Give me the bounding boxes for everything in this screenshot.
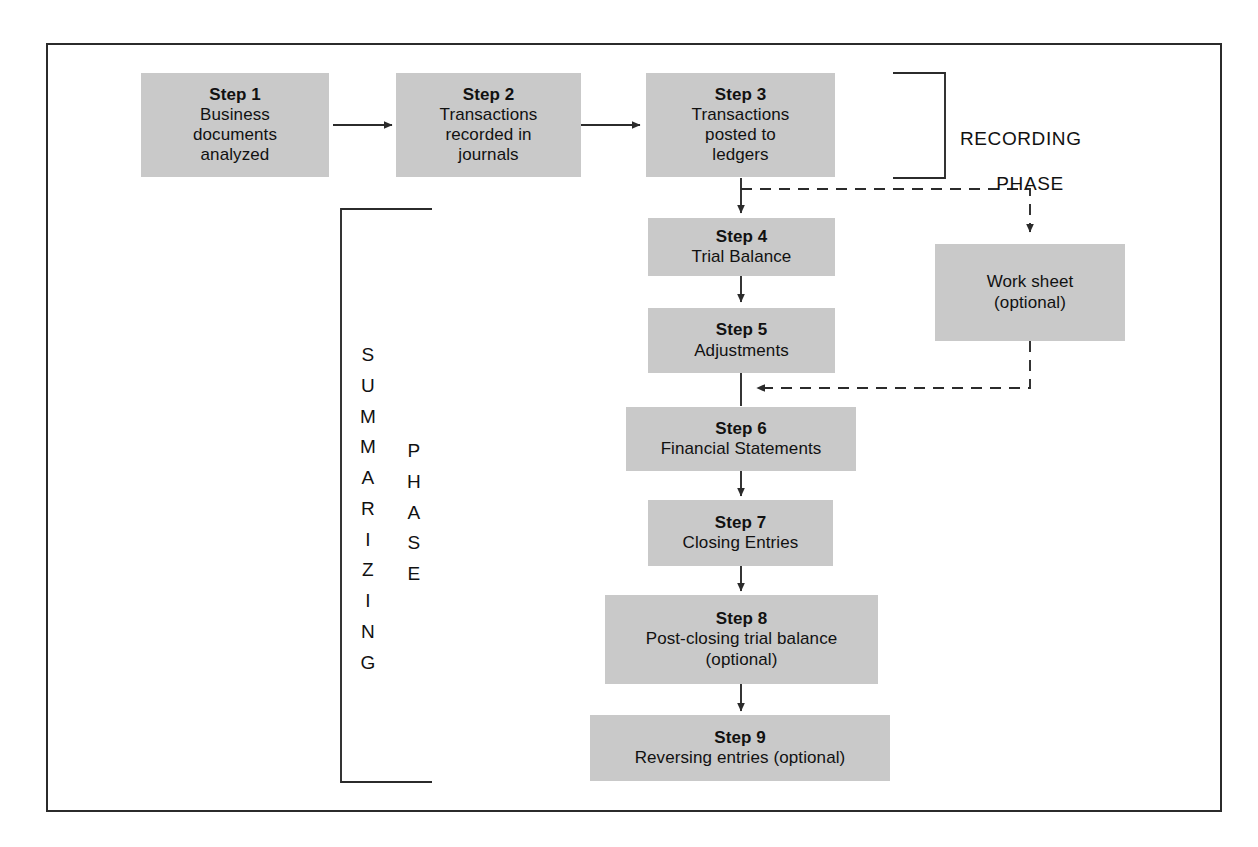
- box-step5-title: Step 5: [716, 320, 768, 340]
- summarizing-letter-3: M: [358, 432, 378, 463]
- box-step9-title: Step 9: [714, 728, 766, 748]
- phase-letter-3: S: [404, 528, 424, 559]
- box-worksheet-line2: (optional): [994, 293, 1066, 313]
- box-step3-line3: ledgers: [712, 145, 768, 165]
- box-step3-line1: Transactions: [692, 105, 790, 125]
- box-step8-title: Step 8: [716, 609, 768, 629]
- box-step2-line3: journals: [458, 145, 518, 165]
- box-worksheet-line1: Work sheet: [987, 272, 1074, 292]
- recording-phase-bracket: [893, 73, 945, 178]
- box-step3-line2: posted to: [705, 125, 776, 145]
- box-step4-title: Step 4: [716, 227, 768, 247]
- summarizing-letter-10: G: [358, 648, 378, 679]
- box-step4-line1: Trial Balance: [692, 247, 792, 267]
- box-step8-line2: (optional): [706, 650, 778, 670]
- phase-letter-0: P: [404, 436, 424, 467]
- box-step7-title: Step 7: [715, 513, 767, 533]
- diagram-canvas: Step 1 Business documents analyzed Step …: [0, 0, 1258, 847]
- phase-letter-2: A: [404, 498, 424, 529]
- box-step2-line2: recorded in: [445, 125, 531, 145]
- phase-letter-1: H: [404, 467, 424, 498]
- box-step5[interactable]: Step 5 Adjustments: [648, 308, 835, 373]
- box-step1-line2: documents: [193, 125, 277, 145]
- summarizing-letter-7: Z: [358, 555, 378, 586]
- box-step3[interactable]: Step 3 Transactions posted to ledgers: [646, 73, 835, 177]
- box-step6-line1: Financial Statements: [661, 439, 822, 459]
- summarizing-letter-9: N: [358, 617, 378, 648]
- summarizing-letter-5: R: [358, 494, 378, 525]
- recording-phase-line1: RECORDING: [960, 128, 1120, 150]
- box-step1-line1: Business: [200, 105, 270, 125]
- box-step9-line1: Reversing entries (optional): [635, 748, 846, 768]
- box-step1-line3: analyzed: [201, 145, 270, 165]
- box-step5-line1: Adjustments: [694, 341, 789, 361]
- box-step9[interactable]: Step 9 Reversing entries (optional): [590, 715, 890, 781]
- box-step6-title: Step 6: [715, 419, 767, 439]
- box-step1-title: Step 1: [209, 85, 261, 105]
- recording-phase-line2: PHASE: [960, 173, 1100, 195]
- summarizing-phase-label-word1: SUMMARIZING: [358, 340, 378, 678]
- box-step6[interactable]: Step 6 Financial Statements: [626, 407, 856, 471]
- box-step4[interactable]: Step 4 Trial Balance: [648, 218, 835, 276]
- box-step8[interactable]: Step 8 Post-closing trial balance (optio…: [605, 595, 878, 684]
- summarizing-letter-0: S: [358, 340, 378, 371]
- box-step7-line1: Closing Entries: [683, 533, 799, 553]
- box-step3-title: Step 3: [715, 85, 767, 105]
- box-step8-line1: Post-closing trial balance: [646, 629, 838, 649]
- box-step1[interactable]: Step 1 Business documents analyzed: [141, 73, 329, 177]
- box-worksheet[interactable]: Work sheet (optional): [935, 244, 1125, 341]
- summarizing-letter-6: I: [358, 525, 378, 556]
- box-step7[interactable]: Step 7 Closing Entries: [648, 500, 833, 566]
- phase-letter-4: E: [404, 559, 424, 590]
- summarizing-letter-8: I: [358, 586, 378, 617]
- summarizing-letter-4: A: [358, 463, 378, 494]
- box-step2[interactable]: Step 2 Transactions recorded in journals: [396, 73, 581, 177]
- summarizing-letter-2: M: [358, 402, 378, 433]
- recording-phase-label: RECORDING PHASE: [960, 106, 1120, 218]
- summarizing-phase-label-word2: PHASE: [404, 436, 424, 590]
- box-step2-title: Step 2: [463, 85, 515, 105]
- summarizing-letter-1: U: [358, 371, 378, 402]
- box-step2-line1: Transactions: [440, 105, 538, 125]
